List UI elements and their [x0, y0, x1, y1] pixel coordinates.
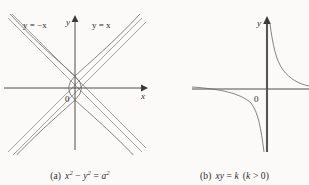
panel-a-caption-label: (a) [50, 171, 61, 181]
panel-b-plot: y 0 [160, 0, 309, 155]
hyperbola-figure-pair: x y 0 y = −x y = x (a)x2 − y2 = a2 y [0, 0, 309, 185]
panel-a-hyperbola: x y 0 y = −x y = x (a)x2 − y2 = a2 [0, 0, 160, 185]
axis-y-label: y [256, 18, 261, 28]
caption-b-k2: k [246, 171, 250, 181]
panel-b-hyperbola: y 0 (b)xy = k(k > 0) [160, 0, 309, 185]
caption-b-xy: xy [215, 171, 224, 181]
hyperbola-right-branch [69, 14, 141, 155]
asymptote-left-label: y = −x [23, 20, 47, 30]
axis-x-label: x [140, 91, 145, 101]
panel-a-plot: x y 0 y = −x y = x [0, 0, 160, 155]
asymptote-right-label: y = x [92, 20, 111, 30]
caption-a-equals: = [94, 171, 99, 181]
origin-label: 0 [254, 94, 259, 104]
caption-a-exp1: 2 [69, 169, 72, 176]
hyperbola-branch-quadrant-1 [270, 24, 309, 86]
caption-b-paren-close: ) [266, 171, 269, 181]
hyperbola-left-branch [10, 14, 82, 155]
caption-b-k: k [234, 171, 238, 181]
axis-y [263, 16, 271, 152]
panel-b-caption-label: (b) [200, 171, 211, 181]
caption-b-equals: = [227, 171, 232, 181]
origin-label: 0 [65, 94, 70, 104]
panel-b-caption: (b)xy = k(k > 0) [160, 171, 309, 181]
caption-b-gt: > [253, 171, 258, 181]
caption-a-minus: − [75, 171, 80, 181]
axis-y-label: y [65, 17, 70, 27]
caption-a-exp3: 2 [106, 169, 109, 176]
panel-a-caption: (a)x2 − y2 = a2 [0, 169, 160, 181]
caption-a-exp2: 2 [88, 169, 91, 176]
